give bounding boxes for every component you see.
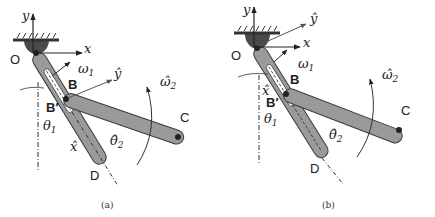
joint-c xyxy=(396,127,402,133)
x-axis-label: x xyxy=(84,41,92,56)
pin-b-prime xyxy=(283,91,289,97)
point-b-prime-label: B′ xyxy=(46,100,59,115)
point-c-label: C xyxy=(401,103,410,118)
omega1-arc xyxy=(20,87,44,90)
od-axis-line xyxy=(322,158,343,184)
omega1-direction-arrow xyxy=(52,62,70,76)
point-c-label: C xyxy=(180,110,189,125)
ground-hatch xyxy=(238,26,277,31)
y-axis-label: y xyxy=(242,2,251,17)
theta2-hat-label: θ̂2 xyxy=(110,133,124,150)
mechanism-figure: y x O ω1 B ŷ ω̂2 C B′ θ1 θ̂2 x̂ D (a) xyxy=(0,0,435,217)
x-hat-label: x̂ xyxy=(262,83,270,98)
omega1-direction-arrow xyxy=(274,50,287,62)
omega2-hat-label: ω̂2 xyxy=(160,74,177,91)
panel-b: y x O ω1 B ŷ ω̂2 C B′ θ1 θ̂2 x̂ D (b) xyxy=(231,2,410,210)
point-d-label: D xyxy=(310,161,319,176)
caption-a: (a) xyxy=(101,200,113,210)
point-b-label: B xyxy=(290,72,299,87)
omega1-label: ω1 xyxy=(78,61,94,78)
ground-hatch xyxy=(17,33,56,38)
omega2-hat-label: ω̂2 xyxy=(382,67,399,84)
pin-b-prime xyxy=(63,96,69,102)
theta1-label: θ1 xyxy=(43,118,57,135)
point-b-label: B xyxy=(68,77,77,92)
origin-label: O xyxy=(231,48,241,63)
omega1-arc xyxy=(238,73,268,77)
panel-a: y x O ω1 B ŷ ω̂2 C B′ θ1 θ̂2 x̂ D (a) xyxy=(10,8,189,210)
point-d-label: D xyxy=(90,168,99,183)
origin-label: O xyxy=(10,52,20,67)
joint-c xyxy=(175,134,181,140)
theta2-hat-label: θ̂2 xyxy=(329,127,343,144)
y-hat-label: ŷ xyxy=(113,66,122,81)
x-hat-label: x̂ xyxy=(70,139,78,154)
y-axis-label: y xyxy=(21,8,30,23)
x-axis-label: x xyxy=(303,35,311,50)
omega1-label: ω1 xyxy=(298,56,314,73)
caption-b: (b) xyxy=(322,200,335,210)
y-hat-label: ŷ xyxy=(309,11,318,26)
theta1-label: θ1 xyxy=(264,111,278,128)
